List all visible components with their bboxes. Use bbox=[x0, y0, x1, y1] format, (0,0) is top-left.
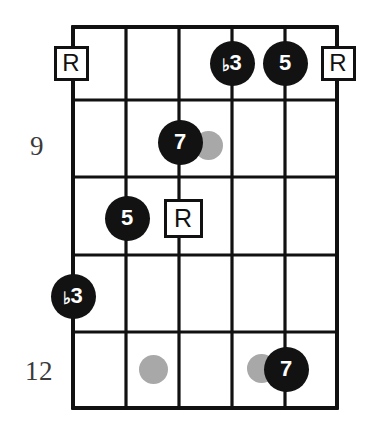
marker-root-fret8-string6: R bbox=[321, 46, 356, 81]
marker-label: R bbox=[62, 51, 79, 75]
marker-label: 7 bbox=[174, 131, 186, 153]
flat-symbol-icon: ♭ bbox=[63, 288, 71, 308]
marker-label: 7 bbox=[280, 358, 292, 380]
marker-label: 5 bbox=[121, 207, 133, 229]
marker-label: ♭3 bbox=[222, 52, 241, 74]
marker-label: ♭3 bbox=[63, 285, 82, 307]
marker-root-fret8-string1: R bbox=[54, 46, 89, 81]
marker-label: R bbox=[174, 205, 192, 230]
marker-seventh-fret12-string5: 7 bbox=[264, 347, 309, 392]
marker-inlay-fret12-lower-left bbox=[139, 355, 168, 384]
flat-symbol-icon: ♭ bbox=[222, 55, 230, 75]
marker-seventh-fret9-string3: 7 bbox=[158, 120, 203, 165]
degree-number: 3 bbox=[70, 283, 82, 308]
marker-label: R bbox=[329, 51, 346, 75]
marker-flat3-fret8-string4: ♭3 bbox=[210, 41, 255, 86]
marker-label: 5 bbox=[279, 52, 291, 74]
fretboard-diagram: 912 R♭35R75R♭37 bbox=[0, 0, 376, 436]
marker-flat3-fret11-string1: ♭3 bbox=[51, 274, 96, 319]
marker-root-fret10-string3: R bbox=[164, 199, 203, 238]
marker-fifth-fret8-string5: 5 bbox=[263, 41, 308, 86]
fret-number-12: 12 bbox=[13, 358, 53, 385]
degree-number: 3 bbox=[229, 50, 241, 75]
fret-number-9: 9 bbox=[4, 133, 44, 160]
marker-fifth-fret10-string2: 5 bbox=[105, 196, 150, 241]
